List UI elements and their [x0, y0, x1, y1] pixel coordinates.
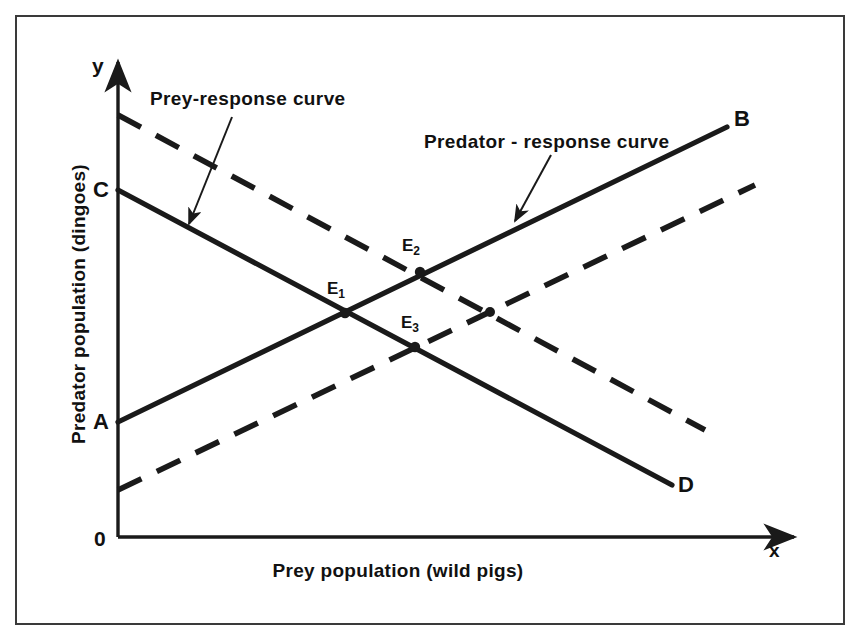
predator-response-annotation: Predator - response curve: [424, 131, 669, 153]
y-axis-letter: y: [92, 54, 104, 78]
equilibrium-marker-E3: [410, 342, 420, 352]
endpoint-label-a: A: [93, 409, 109, 435]
equilibrium-marker-E1: [340, 308, 350, 318]
intersection-marker-dashed: [485, 307, 495, 317]
equilibrium-label-e3-text: E: [401, 313, 412, 332]
prey-response-annotation: Prey-response curve: [150, 88, 346, 110]
x-axis-letter: x: [769, 540, 780, 562]
endpoint-label-c: C: [93, 177, 109, 203]
prey-response-leader-arrow: [189, 117, 232, 224]
series-dashed-increasing: [118, 185, 755, 490]
equilibrium-label-e2-text: E: [402, 236, 413, 255]
endpoint-label-b: B: [734, 106, 750, 132]
x-axis-title: Prey population (wild pigs): [118, 560, 678, 582]
equilibrium-marker-E2: [415, 267, 425, 277]
equilibrium-label-e1-text: E: [327, 279, 338, 298]
equilibrium-label-e3-sub: 3: [412, 321, 419, 335]
plot-canvas: [0, 0, 862, 644]
series-dashed-decreasing: [118, 115, 705, 430]
equilibrium-label-e2: E2: [402, 236, 420, 258]
y-axis-title: Predator population (dingoes): [68, 139, 90, 469]
predator-response-leader-arrow: [515, 155, 551, 221]
equilibrium-label-e2-sub: 2: [413, 244, 420, 258]
figure-container: y x 0 A C B D E1 E2 E3 Prey-response cur…: [0, 0, 862, 644]
series-solid-decreasing-CD: [118, 190, 672, 485]
equilibrium-label-e3: E3: [401, 313, 419, 335]
equilibrium-label-e1: E1: [327, 279, 345, 301]
origin-label: 0: [94, 527, 106, 551]
endpoint-label-d: D: [678, 472, 694, 498]
equilibrium-label-e1-sub: 1: [338, 287, 345, 301]
